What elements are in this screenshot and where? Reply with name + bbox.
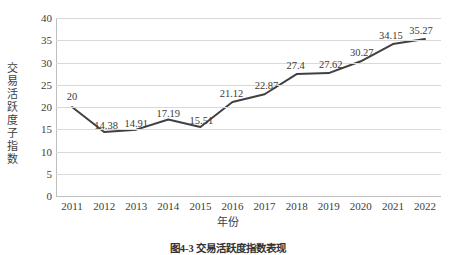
figure-caption: 图4-3 交易活跃度指数表现: [0, 243, 456, 255]
data-label-2018: 27.4: [286, 60, 304, 71]
data-label-2017: 22.87: [255, 80, 279, 91]
data-label-2012: 14.38: [94, 120, 118, 131]
y-tick-label-40: 40: [4, 13, 52, 24]
gridline-0: [56, 196, 441, 197]
y-tick-label-30: 30: [4, 57, 52, 68]
y-tick-label-25: 25: [4, 79, 52, 90]
y-tick-label-35: 35: [4, 35, 52, 46]
data-label-2013: 14.91: [124, 118, 148, 129]
x-tick-label-2013: 2013: [125, 200, 147, 212]
x-axis-title: 年份: [0, 216, 456, 229]
data-label-2011: 20: [67, 91, 78, 102]
x-tick-label-2014: 2014: [157, 200, 179, 212]
y-axis-tick-labels: 0510152025303540: [0, 18, 52, 196]
x-tick-label-2018: 2018: [286, 200, 308, 212]
x-tick-label-2021: 2021: [382, 200, 404, 212]
x-tick-label-2011: 2011: [61, 200, 83, 212]
x-tick-label-2022: 2022: [414, 200, 436, 212]
x-tick-label-2019: 2019: [318, 200, 340, 212]
data-label-2020: 30.27: [350, 47, 374, 58]
y-tick-label-5: 5: [4, 168, 52, 179]
plot-area: [56, 18, 441, 196]
data-label-2021: 34.15: [379, 30, 403, 41]
x-tick-label-2016: 2016: [221, 200, 243, 212]
x-axis-tick-labels: 2011201220132014201520162017201820192020…: [56, 200, 441, 216]
data-label-2022: 35.27: [409, 25, 433, 36]
gridline-40: [56, 18, 441, 19]
gridline-25: [56, 85, 441, 86]
y-tick-label-0: 0: [4, 191, 52, 202]
data-label-2015: 15.51: [190, 115, 214, 126]
y-tick-label-15: 15: [4, 124, 52, 135]
gridline-30: [56, 63, 441, 64]
gridline-5: [56, 174, 441, 175]
data-label-2014: 17.19: [156, 108, 180, 119]
gridline-20: [56, 107, 441, 108]
data-label-2016: 21.12: [220, 88, 244, 99]
x-tick-label-2015: 2015: [189, 200, 211, 212]
y-tick-label-10: 10: [4, 146, 52, 157]
data-label-2019: 27.62: [319, 59, 343, 70]
x-tick-label-2020: 2020: [350, 200, 372, 212]
x-tick-label-2012: 2012: [93, 200, 115, 212]
x-tick-label-2017: 2017: [254, 200, 276, 212]
y-tick-label-20: 20: [4, 102, 52, 113]
gridline-10: [56, 152, 441, 153]
